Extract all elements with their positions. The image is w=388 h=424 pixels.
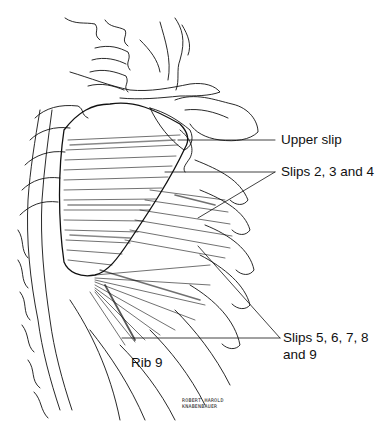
- label-upper-slip: Upper slip: [281, 132, 342, 148]
- cervical-spine: [65, 18, 190, 92]
- leader-lines: [122, 140, 280, 338]
- serratus-hatching-upper: [64, 135, 180, 265]
- label-slips-5-9-line1: Slips 5, 6, 7, 8: [283, 330, 369, 346]
- artist-credit: ROBERT HAROLD KNABENBAUER: [182, 397, 224, 409]
- upper-slip-muscle: [150, 108, 192, 150]
- serratus-hatching-slips-5-9: [90, 265, 210, 345]
- label-rib-9: Rib 9: [131, 355, 163, 371]
- anatomy-illustration: [0, 0, 388, 424]
- label-slips-5-9-line2: and 9: [283, 347, 317, 363]
- leader-slips-5-9-b: [198, 246, 280, 338]
- thoracic-spine: [18, 110, 72, 418]
- label-slips-2-3-4: Slips 2, 3 and 4: [281, 164, 374, 180]
- artist-credit-line2: KNABENBAUER: [182, 403, 224, 409]
- clavicle-shoulder: [70, 72, 258, 172]
- upper-ribs: [20, 106, 88, 216]
- leader-slips-2-4-b: [198, 172, 275, 218]
